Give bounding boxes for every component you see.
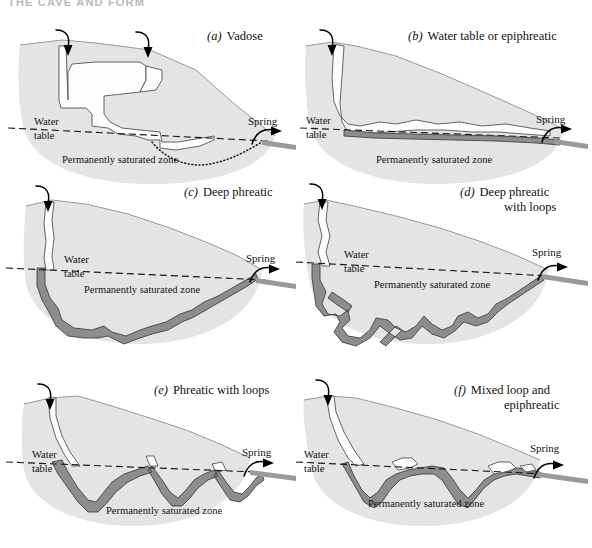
panel-c-caption: (c)Deep phreatic [184,185,273,199]
water-table-label-e2: table [32,463,53,474]
saturated-zone-label-a: Permanently saturated zone [62,154,178,165]
saturated-zone-label-d: Permanently saturated zone [374,279,490,290]
panel-a-vadose: (a)Vadose Water table Permanently satura… [0,18,296,198]
panel-f-letter: (f) [454,383,466,397]
spring-outflow-b [554,139,588,149]
spring-outflow-c [256,278,296,289]
saturated-zone-label-c: Permanently saturated zone [84,284,200,295]
spring-label-e: Spring [242,446,272,458]
spring-label-f: Spring [530,442,560,454]
saturated-zone-label-f: Permanently saturated zone [368,498,484,509]
panel-d-title: Deep phreatic [480,185,550,199]
panel-c-letter: (c) [184,185,198,199]
water-table-label-d1: Water [344,249,369,260]
panel-e-letter: (e) [154,383,168,397]
panel-f-caption-line2: epiphreatic [504,398,560,412]
panel-b-letter: (b) [408,29,423,43]
water-table-label-c2: table [64,268,85,279]
panel-a-letter: (a) [207,29,222,43]
spring-label-a: Spring [248,115,278,127]
panel-f-caption: (f)Mixed loop and [454,383,551,397]
panel-b-title: Water table or epiphreatic [428,29,558,43]
panel-d-deep-phreatic-loops: (d)Deep phreatic with loops Water table … [292,180,588,360]
water-table-label-f2: table [304,463,325,474]
spring-outflow-d [542,274,588,286]
spring-label-b: Spring [536,113,566,125]
panel-e-title: Phreatic with loops [173,383,270,397]
water-table-label-a1: Water [34,116,59,127]
panel-a-caption: (a)Vadose [207,29,263,43]
panel-d-caption-line2: with loops [504,200,557,214]
entrance-shaft-c [44,202,54,270]
water-table-label-b2: table [306,129,327,140]
panel-f-title: Mixed loop and [471,383,551,397]
spring-label-d: Spring [532,246,562,258]
figure-panel-grid: (a)Vadose Water table Permanently satura… [0,0,592,548]
saturated-zone-label-b: Permanently saturated zone [376,154,492,165]
panel-e-caption: (e)Phreatic with loops [154,383,270,397]
panel-d-caption: (d)Deep phreatic [460,185,550,199]
panel-a-title: Vadose [227,29,264,43]
water-table-label-f1: Water [304,449,329,460]
spring-label-c: Spring [246,252,276,264]
water-table-label-d2: table [344,263,365,274]
water-table-label-b1: Water [306,115,331,126]
saturated-zone-label-e: Permanently saturated zone [106,505,222,516]
panel-d-letter: (d) [460,185,475,199]
panel-f-mixed-loop: (f)Mixed loop and epiphreatic Water tabl… [292,362,588,542]
panel-b-water-table: (b)Water table or epiphreatic Water tabl… [292,18,588,198]
panel-c-deep-phreatic: (c)Deep phreatic Water table Permanently… [0,180,296,360]
panel-e-phreatic-loops: (e)Phreatic with loops Water table Perma… [0,362,296,542]
water-table-label-e1: Water [32,449,57,460]
water-table-label-a2: table [34,130,55,141]
water-table-label-c1: Water [64,254,89,265]
panel-c-title: Deep phreatic [203,185,273,199]
spring-outflow-f [538,472,588,484]
panel-b-caption: (b)Water table or epiphreatic [408,29,557,43]
